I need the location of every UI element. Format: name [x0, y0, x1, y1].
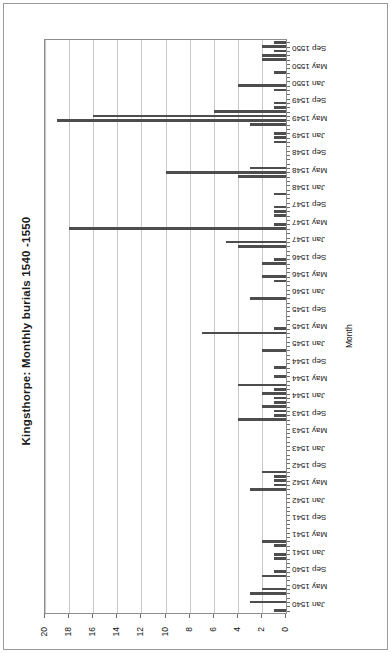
- category-tick-mark: [287, 59, 290, 60]
- category-tick-label: Jan 1545: [292, 339, 325, 348]
- category-tick-mark: [287, 133, 290, 134]
- bar: [273, 544, 285, 547]
- category-tick-mark: [287, 463, 290, 464]
- category-tick-mark: [287, 228, 290, 229]
- category-tick-mark: [287, 489, 290, 490]
- category-tick-mark: [287, 411, 290, 412]
- category-tick-mark: [287, 597, 290, 598]
- category-tick-mark: [287, 107, 290, 108]
- category-tick-mark: [287, 428, 290, 429]
- bar: [249, 123, 285, 126]
- value-tick-mark: [285, 614, 286, 618]
- category-tick-mark: [287, 359, 290, 360]
- bar: [273, 279, 285, 282]
- category-tick-mark: [287, 350, 290, 351]
- category-tick-mark: [287, 50, 290, 51]
- category-tick-mark: [287, 55, 290, 56]
- category-tick-label: Jan 1550: [292, 78, 325, 87]
- value-tick-label: 0: [280, 627, 290, 653]
- bar: [261, 392, 285, 395]
- category-tick-mark: [287, 72, 290, 73]
- gridline: [213, 40, 214, 613]
- bar: [261, 45, 285, 48]
- bar: [249, 166, 285, 169]
- gridline: [69, 40, 70, 613]
- category-tick-label: May 1543: [292, 426, 327, 435]
- value-tick-label: 12: [135, 627, 145, 653]
- category-tick-label: May 1544: [292, 374, 327, 383]
- category-tick-mark: [287, 497, 290, 498]
- category-tick-mark: [287, 194, 290, 195]
- bar: [261, 262, 285, 265]
- gridline: [141, 40, 142, 613]
- category-tick-mark: [287, 571, 290, 572]
- bar: [273, 140, 285, 143]
- category-tick-mark: [287, 337, 290, 338]
- bar: [93, 114, 286, 117]
- bar: [273, 40, 285, 43]
- bar: [201, 331, 285, 334]
- category-tick-mark: [287, 81, 290, 82]
- category-tick-mark: [287, 315, 290, 316]
- bar: [273, 483, 285, 486]
- value-tick-label: 14: [111, 627, 121, 653]
- bar: [273, 388, 285, 391]
- category-tick-label: Sep 1549: [292, 96, 326, 105]
- category-tick-mark: [287, 567, 290, 568]
- bar: [237, 244, 285, 247]
- category-tick-label: May 1545: [292, 322, 327, 331]
- bar-chart: Kingsthorpe: Monthly burials 1540 -1550 …: [14, 14, 386, 648]
- category-axis-title: Month: [344, 324, 354, 348]
- bar: [273, 214, 285, 217]
- category-tick-mark: [287, 424, 290, 425]
- category-tick-mark: [287, 333, 290, 334]
- category-tick-label: Sep 1548: [292, 148, 326, 157]
- category-tick-mark: [287, 528, 290, 529]
- bar: [273, 192, 285, 195]
- bar: [273, 396, 285, 399]
- plot-area: [44, 39, 287, 614]
- category-tick-label: May 1542: [292, 478, 327, 487]
- bar: [261, 58, 285, 61]
- bar: [273, 570, 285, 573]
- value-tick-label: 18: [63, 627, 73, 653]
- bar: [273, 553, 285, 556]
- category-tick-mark: [287, 111, 290, 112]
- bar: [273, 557, 285, 560]
- category-tick-mark: [287, 46, 290, 47]
- bar: [213, 110, 285, 113]
- category-tick-label: Sep 1545: [292, 304, 326, 313]
- bar: [273, 205, 285, 208]
- category-tick-mark: [287, 467, 290, 468]
- category-tick-mark: [287, 341, 290, 342]
- category-tick-mark: [287, 89, 290, 90]
- value-tick-mark: [68, 614, 69, 618]
- category-tick-mark: [287, 207, 290, 208]
- category-tick-mark: [287, 306, 290, 307]
- gridline: [93, 40, 94, 613]
- category-tick-mark: [287, 532, 290, 533]
- bar: [249, 487, 285, 490]
- bar: [273, 132, 285, 135]
- category-tick-mark: [287, 576, 290, 577]
- category-tick-label: Jan 1541: [292, 547, 325, 556]
- category-tick-mark: [287, 63, 290, 64]
- value-tick-label: 10: [159, 627, 169, 653]
- value-tick-mark: [44, 614, 45, 618]
- bar: [237, 84, 285, 87]
- category-tick-label: Sep 1544: [292, 356, 326, 365]
- bar: [261, 540, 285, 543]
- bar: [57, 118, 286, 121]
- category-tick-mark: [287, 311, 290, 312]
- category-tick-mark: [287, 558, 290, 559]
- category-tick-mark: [287, 320, 290, 321]
- bar: [249, 592, 285, 595]
- bar: [165, 171, 286, 174]
- bar: [273, 223, 285, 226]
- category-tick-mark: [287, 172, 290, 173]
- category-tick-mark: [287, 155, 290, 156]
- category-tick-mark: [287, 372, 290, 373]
- category-tick-mark: [287, 76, 290, 77]
- category-tick-mark: [287, 580, 290, 581]
- category-tick-mark: [287, 298, 290, 299]
